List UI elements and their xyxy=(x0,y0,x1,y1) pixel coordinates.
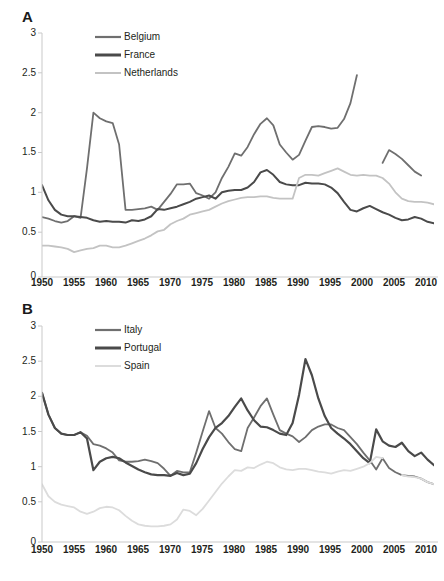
panel-b-xtick-1960: 1960 xyxy=(89,544,123,555)
panel-b-xtick-1985: 1985 xyxy=(249,544,283,555)
legend-item-netherlands[interactable]: Netherlands xyxy=(95,65,178,80)
panel-b: B 3 2.5 2 1.5 1 0.5 0 1950 1955 1960 196… xyxy=(0,290,444,581)
panel-b-ytick-1.5: 1.5 xyxy=(6,427,36,437)
legend-label-netherlands: Netherlands xyxy=(124,67,178,78)
panel-b-xtick-1990: 1990 xyxy=(281,544,315,555)
panel-a-ytick-2.5: 2.5 xyxy=(6,68,36,78)
panel-b-xtick-1950: 1950 xyxy=(25,544,59,555)
panel-a-xtick-1980: 1980 xyxy=(217,277,251,288)
panel-b-label: B xyxy=(22,300,33,317)
panel-a-xtick-1970: 1970 xyxy=(153,277,187,288)
legend-swatch-spain xyxy=(95,364,121,368)
panel-b-xtick-2000: 2000 xyxy=(345,544,379,555)
panel-b-xtick-1970: 1970 xyxy=(153,544,187,555)
legend-swatch-france xyxy=(95,53,121,57)
panel-b-xtick-1965: 1965 xyxy=(121,544,155,555)
panel-a-ytick-1: 1 xyxy=(6,187,36,197)
legend-item-italy[interactable]: Italy xyxy=(95,322,161,337)
panel-b-ytick-3: 3 xyxy=(6,321,36,331)
panel-a: A 3 2.5 2 1.5 1 0.5 0 1950 1955 1960 196… xyxy=(0,0,444,290)
legend-label-portugal: Portugal xyxy=(124,342,161,353)
panel-b-xtick-1995: 1995 xyxy=(313,544,347,555)
panel-b-ytick-1: 1 xyxy=(6,462,36,472)
panel-a-xtick-1985: 1985 xyxy=(249,277,283,288)
panel-a-xtick-1990: 1990 xyxy=(281,277,315,288)
panel-a-xtick-2005: 2005 xyxy=(377,277,411,288)
panel-a-label: A xyxy=(22,8,33,25)
panel-a-xtick-1965: 1965 xyxy=(121,277,155,288)
panel-a-xtick-1955: 1955 xyxy=(57,277,91,288)
legend-label-belgium: Belgium xyxy=(124,31,160,42)
panel-a-xtick-1950: 1950 xyxy=(25,277,59,288)
panel-b-ytick-2: 2 xyxy=(6,391,36,401)
panel-a-ytick-2: 2 xyxy=(6,108,36,118)
legend-item-france[interactable]: France xyxy=(95,47,178,62)
panel-a-xtick-1960: 1960 xyxy=(89,277,123,288)
panel-b-xtick-1975: 1975 xyxy=(185,544,219,555)
panel-a-xtick-2010: 2010 xyxy=(409,277,443,288)
figure-container: A 3 2.5 2 1.5 1 0.5 0 1950 1955 1960 196… xyxy=(0,0,444,581)
panel-b-xtick-1955: 1955 xyxy=(57,544,91,555)
panel-b-xtick-2005: 2005 xyxy=(377,544,411,555)
legend-swatch-belgium xyxy=(95,35,121,39)
legend-item-belgium[interactable]: Belgium xyxy=(95,29,178,44)
panel-b-axes xyxy=(30,321,440,545)
panel-a-xtick-1975: 1975 xyxy=(185,277,219,288)
panel-b-xtick-2010: 2010 xyxy=(409,544,443,555)
panel-a-ytick-3: 3 xyxy=(6,28,36,38)
legend-label-france: France xyxy=(124,49,155,60)
legend-label-italy: Italy xyxy=(124,324,142,335)
legend-item-portugal[interactable]: Portugal xyxy=(95,340,161,355)
panel-a-xtick-2000: 2000 xyxy=(345,277,379,288)
panel-a-xtick-1995: 1995 xyxy=(313,277,347,288)
legend-swatch-netherlands xyxy=(95,71,121,75)
panel-a-ytick-1.5: 1.5 xyxy=(6,147,36,157)
legend-label-spain: Spain xyxy=(124,360,150,371)
panel-b-legend: Italy Portugal Spain xyxy=(95,322,161,376)
panel-a-ytick-0.5: 0.5 xyxy=(6,227,36,237)
panel-b-ytick-2.5: 2.5 xyxy=(6,356,36,366)
panel-a-axes xyxy=(30,28,440,280)
panel-b-ytick-0.5: 0.5 xyxy=(6,497,36,507)
legend-item-spain[interactable]: Spain xyxy=(95,358,161,373)
legend-swatch-portugal xyxy=(95,346,121,350)
legend-swatch-italy xyxy=(95,328,121,332)
panel-b-xtick-1980: 1980 xyxy=(217,544,251,555)
panel-a-legend: Belgium France Netherlands xyxy=(95,29,178,83)
